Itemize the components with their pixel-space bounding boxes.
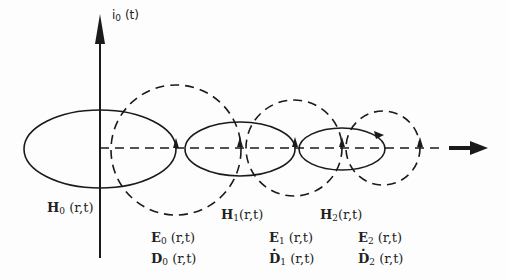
h0-label: H0 (r,t) — [47, 200, 93, 216]
h1-loop — [185, 122, 295, 176]
direction-markers — [173, 131, 423, 148]
d0-label: D0 (r,t) — [151, 251, 196, 267]
current-label: i0 (t) — [112, 8, 139, 23]
magnetic-field-loops — [24, 110, 385, 188]
d2-dot-label: D2 (r,t) — [358, 251, 403, 267]
propagation-arrow-icon — [470, 141, 488, 155]
current-arrow-icon — [95, 14, 105, 44]
em-wave-propagation-diagram: i0 (t) H0 (r,t) H1(r,t) H2(r,t) E0 (r,t)… — [0, 0, 508, 280]
current-axis — [95, 14, 105, 258]
h1-label: H1(r,t) — [221, 207, 263, 223]
diagram-graphics — [0, 0, 508, 280]
e0-label: E0 (r,t) — [151, 230, 195, 246]
h2-label: H2(r,t) — [320, 207, 362, 223]
electric-field-loops — [111, 85, 420, 215]
d1-dot-label: D1 (r,t) — [269, 251, 314, 267]
